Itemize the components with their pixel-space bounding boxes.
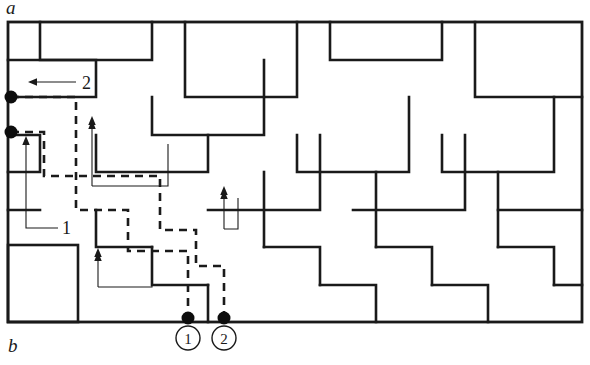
dashed-route-2 xyxy=(11,132,224,318)
arrowhead-icon xyxy=(22,136,30,145)
arrowhead-icon xyxy=(220,186,228,195)
marker-2-label: 2 xyxy=(220,331,228,347)
leader-inner-up-c xyxy=(98,262,152,287)
wall-segment xyxy=(264,247,320,285)
marker-2-dot xyxy=(218,312,231,325)
leader-callout-1 xyxy=(26,140,58,228)
left-node-lower xyxy=(5,126,18,139)
wall-segment xyxy=(320,285,376,322)
wall-segment xyxy=(432,285,488,322)
arrowhead-icon xyxy=(94,248,102,257)
left-node-upper xyxy=(5,91,18,104)
wall-segment xyxy=(498,247,554,285)
panel-label-b: b xyxy=(8,335,18,356)
bottom-marker-group: 12 xyxy=(176,312,236,351)
wall-segment xyxy=(40,22,152,60)
arrowhead-icon xyxy=(88,116,96,125)
leader-inner-up-a xyxy=(92,144,168,186)
wall-segment xyxy=(297,97,409,172)
wall-group xyxy=(8,22,582,322)
callout-label-1: 1 xyxy=(62,218,71,238)
wall-segment xyxy=(330,22,442,60)
figure-canvas: a 12 2 1 b xyxy=(0,0,590,365)
labyrinth-figure: a 12 2 1 b xyxy=(0,0,590,365)
marker-1-dot xyxy=(182,312,195,325)
leader-line-group xyxy=(22,78,238,287)
arrowhead-icon xyxy=(28,78,37,86)
callout-label-2: 2 xyxy=(82,73,91,93)
panel-label-a: a xyxy=(6,0,16,18)
marker-1-label: 1 xyxy=(184,331,192,347)
leader-inner-up-e xyxy=(224,198,238,229)
wall-segment xyxy=(185,22,297,97)
wall-segment xyxy=(96,210,152,247)
wall-segment xyxy=(475,22,582,97)
left-node-group xyxy=(5,91,18,139)
wall-segment xyxy=(442,97,554,172)
inner-box xyxy=(8,245,78,322)
wall-segment xyxy=(96,135,208,172)
wall-segment xyxy=(376,247,432,285)
wall-segment xyxy=(8,135,40,172)
